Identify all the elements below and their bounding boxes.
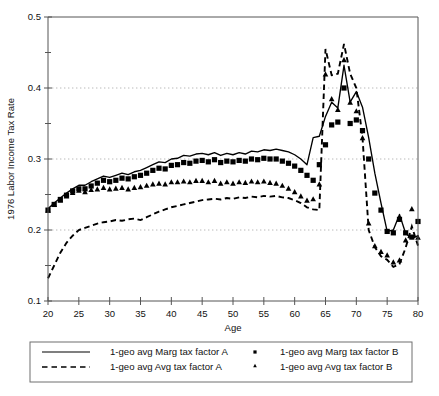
data-marker-square	[304, 173, 309, 178]
axis-labels: 0.10.20.30.40.52025303540455055606570758…	[5, 11, 423, 333]
data-marker-triangle	[323, 71, 329, 76]
data-marker-square	[397, 217, 402, 222]
chart-figure: 0.10.20.30.40.52025303540455055606570758…	[0, 0, 439, 396]
data-marker-square	[298, 168, 303, 173]
data-marker-square	[317, 162, 322, 167]
data-marker-triangle	[292, 189, 298, 194]
data-marker-square	[113, 178, 118, 183]
data-marker-triangle	[206, 179, 212, 184]
data-marker-square	[378, 208, 383, 213]
data-marker-square	[354, 117, 359, 122]
data-marker-square	[126, 176, 131, 181]
x-tick-label: 65	[320, 308, 331, 319]
y-tick-label: 0.5	[28, 11, 41, 22]
data-marker-triangle	[162, 181, 168, 186]
data-marker-square	[243, 159, 248, 164]
data-marker-square	[156, 166, 161, 171]
data-marker-square	[292, 164, 297, 169]
data-marker-triangle	[298, 193, 304, 198]
x-tick-label: 60	[289, 308, 300, 319]
data-marker-triangle	[329, 96, 335, 101]
chart-svg: 0.10.20.30.40.52025303540455055606570758…	[0, 0, 439, 396]
data-marker-square	[206, 159, 211, 164]
data-marker-triangle	[236, 179, 242, 184]
data-marker-square	[280, 159, 285, 164]
data-marker-triangle	[101, 185, 107, 190]
data-marker-triangle	[360, 135, 366, 140]
data-marker-square	[119, 176, 124, 181]
data-marker-square	[261, 156, 266, 161]
data-marker-square	[311, 178, 316, 183]
data-marker-triangle	[267, 180, 273, 185]
data-marker-triangle	[304, 198, 310, 203]
data-marker-square	[101, 178, 106, 183]
data-marker-square	[274, 156, 279, 161]
legend-key-square-marker	[253, 350, 256, 353]
data-marker-triangle	[261, 178, 267, 183]
x-tick-label: 40	[166, 308, 177, 319]
data-marker-square	[107, 179, 112, 184]
data-marker-square	[348, 121, 353, 126]
data-marker-triangle	[125, 186, 131, 191]
data-marker-square	[224, 159, 229, 164]
data-marker-triangle	[181, 178, 187, 183]
data-marker-square	[230, 159, 235, 164]
data-marker-square	[187, 161, 192, 166]
data-marker-triangle	[169, 179, 175, 184]
data-marker-square	[366, 156, 371, 161]
chart-legend: 1-geo avg Marg tax factor A1-geo avg Mar…	[30, 342, 412, 382]
data-marker-triangle	[187, 179, 193, 184]
data-marker-triangle	[119, 185, 125, 190]
data-marker-square	[286, 161, 291, 166]
data-marker-square	[403, 230, 408, 235]
y-axis-title: 1976 Labor Income Tax Rate	[5, 98, 16, 220]
data-marker-triangle	[132, 185, 138, 190]
x-tick-label: 55	[259, 308, 270, 319]
data-marker-triangle	[335, 107, 341, 112]
data-marker-triangle	[273, 181, 279, 186]
legend-label-a: 1-geo avg Marg tax factor A	[110, 346, 228, 357]
data-marker-triangle	[255, 179, 261, 184]
data-marker-square	[329, 122, 334, 127]
data-marker-triangle	[199, 178, 205, 183]
data-marker-square	[267, 156, 272, 161]
data-marker-square	[144, 171, 149, 176]
data-marker-square	[218, 160, 223, 165]
x-tick-label: 50	[228, 308, 239, 319]
y-tick-label: 0.2	[28, 224, 41, 235]
data-marker-square	[323, 142, 328, 147]
data-marker-triangle	[224, 179, 230, 184]
data-marker-triangle	[193, 178, 199, 183]
data-marker-triangle	[156, 181, 162, 186]
y-tick-label: 0.1	[28, 295, 41, 306]
data-marker-triangle	[280, 183, 286, 188]
data-marker-triangle	[230, 181, 236, 186]
y-tick-label: 0.3	[28, 153, 41, 164]
data-marker-triangle	[175, 179, 181, 184]
data-marker-triangle	[384, 252, 390, 257]
data-marker-triangle	[138, 184, 144, 189]
series-marg-factor-b	[45, 85, 420, 239]
data-marker-triangle	[212, 178, 218, 183]
data-marker-square	[385, 229, 390, 234]
data-marker-square	[212, 157, 217, 162]
x-tick-label: 45	[197, 308, 208, 319]
data-marker-triangle	[391, 259, 397, 264]
x-tick-label: 20	[43, 308, 54, 319]
data-marker-square	[409, 235, 414, 240]
data-marker-triangle	[249, 178, 255, 183]
data-marker-triangle	[366, 220, 372, 225]
series-marg-factor-a	[48, 65, 418, 238]
x-tick-label: 25	[74, 308, 85, 319]
data-marker-square	[360, 128, 365, 133]
data-marker-square	[255, 157, 260, 162]
data-marker-square	[193, 159, 198, 164]
x-axis-title: Age	[225, 322, 242, 333]
data-marker-square	[335, 119, 340, 124]
data-marker-square	[372, 190, 377, 195]
data-marker-square	[150, 168, 155, 173]
x-tick-label: 80	[413, 308, 424, 319]
data-marker-triangle	[378, 249, 384, 254]
data-marker-square	[163, 166, 168, 171]
data-marker-triangle	[372, 243, 378, 248]
